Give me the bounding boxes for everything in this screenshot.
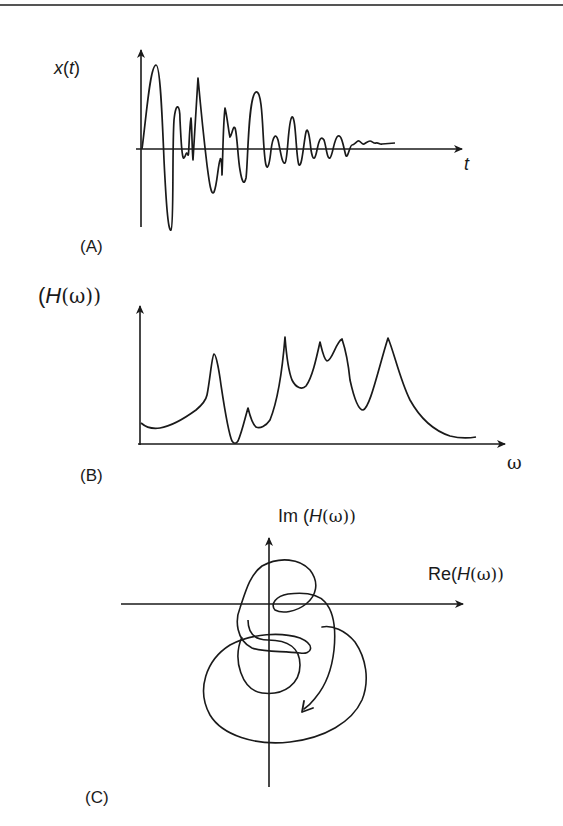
panel-b-magnitude-curve xyxy=(141,337,476,443)
panel-c-x-label: Re(H(ω)) xyxy=(428,564,504,585)
panel-c-y-label: Im (H(ω)) xyxy=(278,506,356,527)
panel-a-label: (A) xyxy=(80,237,103,257)
panel-a-signal-curve xyxy=(142,65,395,230)
panel-b-y-label: (H(ω)) xyxy=(38,283,101,309)
panel-c-nyquist-curve xyxy=(204,560,367,743)
figure-canvas xyxy=(0,0,563,826)
panel-b-label: (B) xyxy=(80,466,103,486)
panel-a-y-label-arg: (t) xyxy=(63,58,80,78)
panel-c-label: (C) xyxy=(85,788,109,808)
panel-b-plot xyxy=(138,306,505,445)
panel-c-plot xyxy=(121,538,463,787)
panel-a-x-label: t xyxy=(464,154,469,175)
panel-b-x-label: ω xyxy=(507,452,522,473)
panel-a-plot xyxy=(136,50,462,230)
panel-a-y-label: x(t) xyxy=(54,58,80,79)
